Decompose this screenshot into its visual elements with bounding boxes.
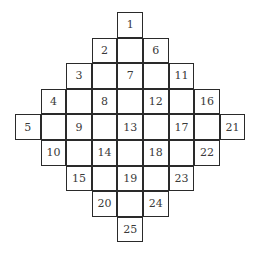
grid-cell-24: 24 [143, 191, 169, 217]
grid-cell-blank [169, 89, 195, 115]
grid-cell-13: 13 [117, 114, 143, 140]
grid-cell-8: 8 [92, 89, 118, 115]
grid-cell-blank [143, 114, 169, 140]
grid-cell-blank [66, 140, 92, 166]
grid-cell-1: 1 [117, 12, 143, 38]
grid-cell-4: 4 [41, 89, 67, 115]
grid-cell-blank [66, 89, 92, 115]
grid-cell-blank [92, 63, 118, 89]
grid-cell-blank [41, 114, 67, 140]
grid-cell-15: 15 [66, 166, 92, 192]
grid-cell-3: 3 [66, 63, 92, 89]
grid-cell-21: 21 [220, 114, 246, 140]
grid-cell-16: 16 [194, 89, 220, 115]
grid-cell-2: 2 [92, 38, 118, 64]
grid-cell-17: 17 [169, 114, 195, 140]
grid-cell-blank [143, 166, 169, 192]
grid-cell-blank [194, 114, 220, 140]
grid-cell-18: 18 [143, 140, 169, 166]
grid-cell-10: 10 [41, 140, 67, 166]
grid-cell-12: 12 [143, 89, 169, 115]
grid-cell-11: 11 [169, 63, 195, 89]
grid-cell-20: 20 [92, 191, 118, 217]
grid-cell-blank [117, 89, 143, 115]
grid-cell-5: 5 [15, 114, 41, 140]
grid-cell-blank [92, 166, 118, 192]
grid-cell-25: 25 [117, 217, 143, 243]
grid-cell-blank [143, 63, 169, 89]
grid-cell-23: 23 [169, 166, 195, 192]
grid-cell-blank [117, 38, 143, 64]
diamond-grid: 1263711481216591317211014182215192320242… [15, 12, 246, 243]
grid-cell-blank [117, 191, 143, 217]
grid-cell-blank [92, 114, 118, 140]
grid-cell-19: 19 [117, 166, 143, 192]
grid-cell-9: 9 [66, 114, 92, 140]
grid-cell-blank [169, 140, 195, 166]
grid-cell-14: 14 [92, 140, 118, 166]
grid-cell-blank [117, 140, 143, 166]
grid-cell-22: 22 [194, 140, 220, 166]
grid-cell-7: 7 [117, 63, 143, 89]
grid-cell-6: 6 [143, 38, 169, 64]
